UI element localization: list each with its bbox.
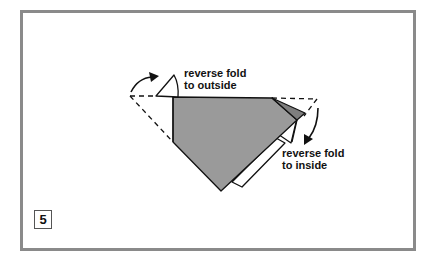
dashed-guide-left [130, 96, 173, 142]
label-line: to outside [184, 79, 246, 91]
curved-arrow-icon-outside [131, 72, 159, 92]
step-number-badge: 5 [34, 210, 52, 229]
white-tail-flap [156, 75, 178, 97]
label-line: reverse fold [282, 147, 344, 159]
origami-fold-figure [0, 0, 437, 261]
label-line: reverse fold [184, 67, 246, 79]
label-reverse-fold-inside: reverse fold to inside [282, 147, 344, 171]
label-line: to inside [282, 159, 344, 171]
label-reverse-fold-outside: reverse fold to outside [184, 67, 246, 91]
